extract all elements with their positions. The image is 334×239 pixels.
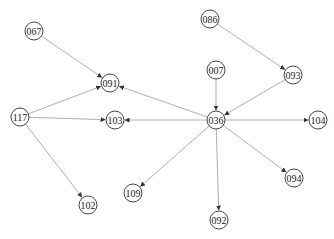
node-label: 103 xyxy=(108,115,123,126)
edge-036-to-091 xyxy=(119,86,208,117)
node-label: 117 xyxy=(13,112,28,123)
node-label: 036 xyxy=(209,115,224,126)
node-label: 067 xyxy=(27,26,42,37)
node-103[interactable]: 103 xyxy=(106,111,124,129)
node-label: 007 xyxy=(209,65,224,76)
node-092[interactable]: 092 xyxy=(210,211,228,229)
node-label: 104 xyxy=(311,115,326,126)
node-117[interactable]: 117 xyxy=(11,108,29,126)
edge-036-to-094 xyxy=(223,125,286,172)
node-104[interactable]: 104 xyxy=(309,111,327,129)
node-label: 102 xyxy=(81,200,96,211)
edges-layer xyxy=(26,24,309,210)
node-093[interactable]: 093 xyxy=(284,66,302,84)
node-label: 109 xyxy=(126,188,141,199)
node-086[interactable]: 086 xyxy=(201,10,219,28)
node-067[interactable]: 067 xyxy=(25,22,43,40)
edge-117-to-102 xyxy=(26,124,83,197)
node-label: 091 xyxy=(103,78,118,89)
node-label: 086 xyxy=(203,14,218,25)
node-109[interactable]: 109 xyxy=(124,184,142,202)
node-094[interactable]: 094 xyxy=(285,169,303,187)
edge-117-to-103 xyxy=(29,117,106,119)
node-102[interactable]: 102 xyxy=(79,196,97,214)
edge-086-to-093 xyxy=(217,24,285,70)
edge-093-to-036 xyxy=(224,80,285,116)
edge-036-to-092 xyxy=(216,129,218,211)
node-036[interactable]: 036 xyxy=(207,111,225,129)
edge-036-to-109 xyxy=(140,126,209,187)
node-label: 092 xyxy=(212,215,227,226)
graph-canvas: 067091086093007117103036104109102094092 xyxy=(0,0,334,239)
edge-117-to-091 xyxy=(28,86,101,113)
node-label: 093 xyxy=(286,70,301,81)
node-091[interactable]: 091 xyxy=(101,74,119,92)
node-label: 094 xyxy=(287,173,302,184)
edge-067-to-091 xyxy=(41,36,102,78)
node-007[interactable]: 007 xyxy=(207,61,225,79)
